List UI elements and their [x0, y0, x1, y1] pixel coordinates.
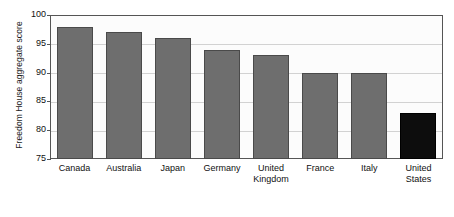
bar-france — [302, 73, 338, 159]
x-label-france: France — [296, 163, 345, 174]
bar-canada — [57, 27, 93, 159]
x-axis-labels: CanadaAustraliaJapanGermanyUnitedKingdom… — [50, 163, 443, 211]
bar-australia — [106, 32, 142, 159]
x-label-japan: Japan — [148, 163, 197, 174]
x-label-australia: Australia — [99, 163, 148, 174]
x-label-united-states: UnitedStates — [394, 163, 443, 185]
bar-series — [50, 15, 443, 159]
x-label-canada: Canada — [50, 163, 99, 174]
y-tick-label-100: 100 — [4, 10, 46, 19]
x-label-germany: Germany — [197, 163, 246, 174]
y-tick-label-95: 95 — [4, 39, 46, 48]
y-tick-mark-75 — [47, 159, 51, 160]
x-label-united-kingdom: UnitedKingdom — [247, 163, 296, 185]
bar-chart: Freedom House aggregate score 1009590858… — [0, 0, 454, 217]
bar-united-states — [400, 113, 436, 159]
y-tick-label-85: 85 — [4, 96, 46, 105]
bar-italy — [351, 73, 387, 159]
bar-japan — [155, 38, 191, 159]
y-tick-label-90: 90 — [4, 68, 46, 77]
bar-germany — [204, 50, 240, 159]
y-tick-label-75: 75 — [4, 154, 46, 163]
x-label-italy: Italy — [345, 163, 394, 174]
bar-united-kingdom — [253, 55, 289, 159]
y-tick-label-80: 80 — [4, 125, 46, 134]
